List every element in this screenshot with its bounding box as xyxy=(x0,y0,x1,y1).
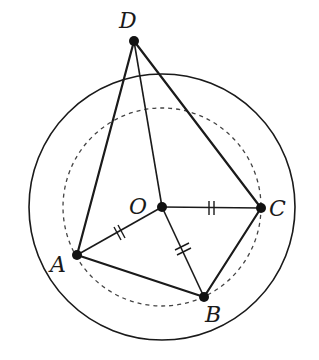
geometry-diagram: D O C A B xyxy=(0,0,319,360)
point-D xyxy=(129,36,139,46)
label-B: B xyxy=(204,302,221,327)
label-A: A xyxy=(48,252,66,277)
label-D: D xyxy=(118,8,137,33)
segment-DC xyxy=(134,41,261,208)
segment-DO xyxy=(134,41,162,207)
label-O: O xyxy=(129,194,147,219)
label-C: C xyxy=(269,196,286,221)
segment-BC xyxy=(204,208,261,297)
segment-AB xyxy=(77,255,204,297)
segment-DA xyxy=(77,41,134,255)
segment-OC xyxy=(162,207,261,208)
point-B xyxy=(199,292,209,302)
point-C xyxy=(256,203,266,213)
point-O xyxy=(157,202,167,212)
point-A xyxy=(72,250,82,260)
segment-OA xyxy=(77,207,162,255)
